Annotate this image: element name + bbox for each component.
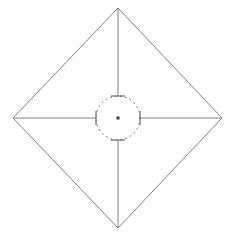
diagram-canvas — [0, 0, 235, 245]
center-dot — [117, 117, 120, 120]
diamond-radial-diagram — [0, 0, 235, 245]
